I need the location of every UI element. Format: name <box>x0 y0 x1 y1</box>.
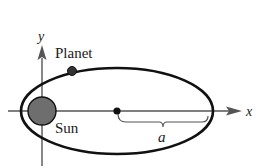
planet-icon <box>68 67 77 76</box>
sun-icon <box>28 97 56 125</box>
orbit-diagram: y x Planet Sun a <box>0 0 272 168</box>
ellipse-center-point <box>113 107 120 114</box>
planet-label: Planet <box>55 45 93 61</box>
y-axis-arrow-icon <box>38 45 47 60</box>
y-axis-label: y <box>36 29 45 44</box>
x-axis-label: x <box>245 104 253 119</box>
sun-label: Sun <box>55 120 79 136</box>
diagram-canvas: y x Planet Sun a <box>0 0 272 168</box>
semi-major-axis-label: a <box>158 129 166 145</box>
semi-major-axis-brace <box>118 114 208 127</box>
